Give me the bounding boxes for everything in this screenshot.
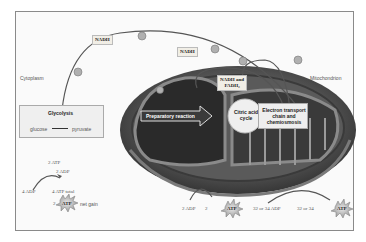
etc-atp-label: ATP (337, 206, 347, 211)
used-atp-label: 2 ATP (48, 160, 60, 165)
input-adp-label: 4 ADP (22, 189, 35, 194)
nadh-tag-mid: NADH (177, 47, 198, 57)
used-adp-label: 2 ADP (56, 169, 69, 174)
etc-label: Electron transport chain and chemiosmosi… (261, 107, 307, 125)
citric-line2: cycle (234, 115, 258, 121)
atp-net-label: ATP (62, 201, 72, 206)
pyruvate-label: pyruvate (72, 126, 91, 132)
nadh-fadh2-line2: FADH₂ (220, 83, 244, 89)
preparatory-reaction-label: Preparatory reaction (146, 113, 195, 119)
citric-atp-count: 2 (205, 206, 208, 211)
cytoplasm-label: Cytoplasm (20, 75, 44, 81)
mitochondrion-label: Mitochondrion (310, 75, 341, 81)
etc-input-adp: 32 or 34 ADP (253, 206, 281, 211)
glycolysis-title: Glycolysis (48, 110, 73, 116)
citric-acid-label: Citric acid cycle (234, 109, 258, 121)
glycolysis-box: Glycolysis glucose pyruvate (19, 105, 104, 138)
etc-box: Electron transport chain and chemiosmosi… (258, 103, 308, 129)
etc-atp-count: 32 or 34 (297, 206, 314, 211)
citric-input-adp: 2 ADP (182, 206, 195, 211)
arrow-icon (52, 128, 68, 129)
citric-atp-label: ATP (227, 206, 237, 211)
glucose-label: glucose (30, 126, 47, 132)
nadh-tag-top: NADH (92, 35, 113, 45)
net-gain-label: net gain (80, 201, 98, 207)
nadh-fadh2-tag: NADH and FADH₂ (217, 75, 247, 91)
net-count: 2 (53, 201, 56, 206)
atp-total-label: 4 ATP total (52, 189, 74, 194)
etc-line3: chemiosmosis (261, 119, 307, 125)
